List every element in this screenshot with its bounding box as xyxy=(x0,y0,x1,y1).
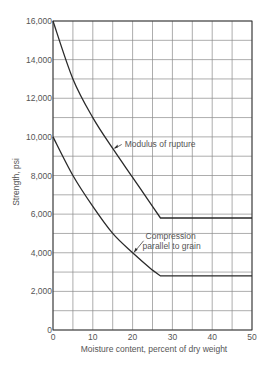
x-tick-labels: 01020304050 xyxy=(51,332,257,342)
y-tick-label: 14,000 xyxy=(26,55,52,65)
y-tick-label: 6,000 xyxy=(31,209,53,219)
grid xyxy=(53,21,252,330)
x-axis-label: Moisture content, percent of dry weight xyxy=(81,344,228,354)
y-tick-label: 4,000 xyxy=(31,248,53,258)
annotation-parallel-to-grain: parallel to grain xyxy=(143,241,201,251)
annotation-modulus-of-rupture: Modulus of rupture xyxy=(125,139,196,149)
y-tick-label: 12,000 xyxy=(26,93,52,103)
y-tick-labels: 02,0004,0006,0008,00010,00012,00014,0001… xyxy=(26,16,52,335)
x-tick-label: 50 xyxy=(247,332,257,342)
x-tick-label: 0 xyxy=(51,332,56,342)
y-tick-label: 16,000 xyxy=(26,16,52,26)
x-tick-label: 30 xyxy=(168,332,178,342)
y-tick-label: 10,000 xyxy=(26,132,52,142)
y-tick-label: 2,000 xyxy=(31,286,53,296)
strength-vs-moisture-chart: 02,0004,0006,0008,00010,00012,00014,0001… xyxy=(0,0,271,367)
y-tick-label: 8,000 xyxy=(31,171,53,181)
arrow-head-icon xyxy=(114,144,118,148)
x-tick-label: 10 xyxy=(88,332,98,342)
annotation-compression: Compression xyxy=(146,231,196,241)
x-tick-label: 40 xyxy=(207,332,217,342)
x-tick-label: 20 xyxy=(128,332,138,342)
y-axis-label: Strength, psi xyxy=(11,158,21,206)
